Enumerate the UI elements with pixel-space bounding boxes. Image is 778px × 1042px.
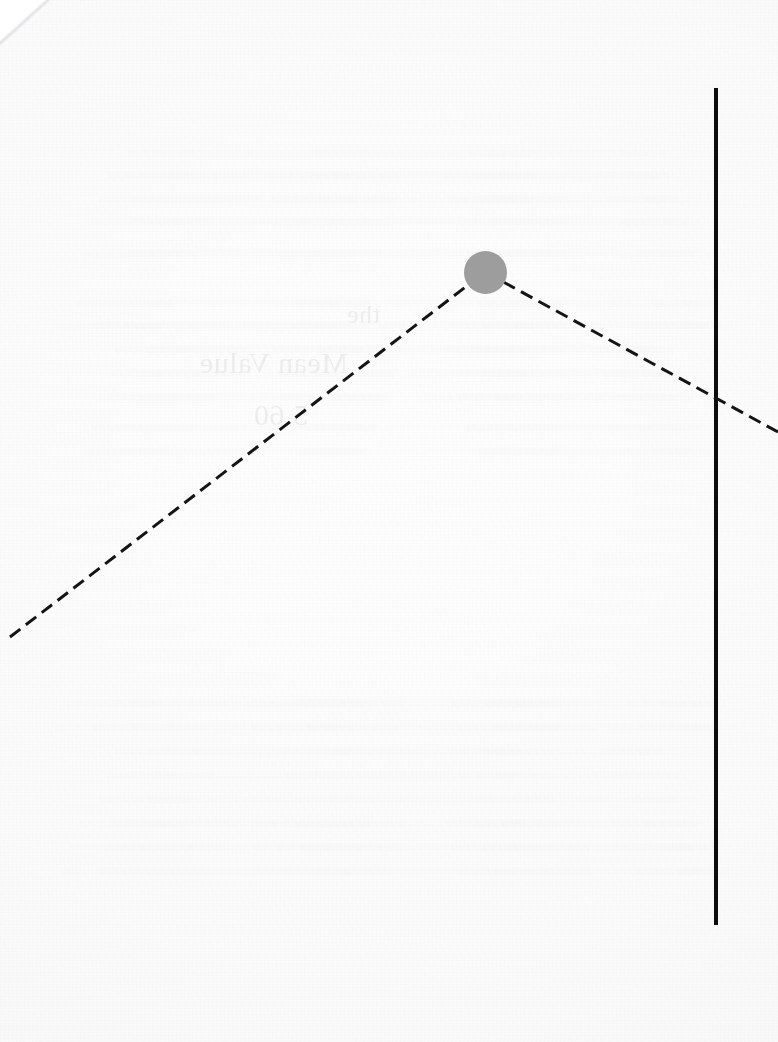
artwork-canvas	[0, 0, 778, 1042]
artwork-layer	[0, 0, 778, 1042]
dashed-peak-path	[10, 272, 778, 637]
apex-point-marker	[464, 251, 507, 294]
figure-page: Mean Value5.60the	[0, 0, 778, 1042]
